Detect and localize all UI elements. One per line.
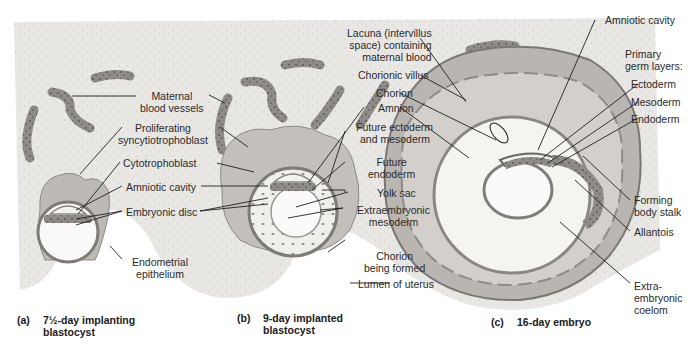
label-endoderm: Endoderm bbox=[631, 113, 679, 125]
label-ectoderm: Ectoderm bbox=[631, 78, 676, 90]
label-proliferating-syncytiotrophoblast: Proliferatingsyncytiotrophoblast bbox=[118, 122, 208, 146]
label-allantois: Allantois bbox=[634, 226, 674, 238]
label-future-ectoderm: Future ectodermand mesoderm bbox=[356, 121, 433, 145]
embryonic-disc-a bbox=[44, 215, 92, 223]
label-maternal-blood-vessels: Maternalblood vessels bbox=[140, 90, 204, 114]
label-future-endoderm: Futureendoderm bbox=[368, 156, 415, 180]
label-yolk-sac: Yolk sac bbox=[377, 187, 416, 199]
label-chorionic-villus: Chorionic villus bbox=[358, 69, 429, 81]
label-chorion: Chorion bbox=[376, 87, 413, 99]
label-lumen-of-uterus: Lumen of uterus bbox=[358, 278, 434, 290]
caption-panel-c: (c)16-day embryo bbox=[491, 316, 591, 328]
caption-panel-b: (b)9-day implantedblastocyst bbox=[237, 312, 343, 336]
label-forming-body-stalk: Formingbody stalk bbox=[634, 194, 681, 218]
embryonic-disc-b bbox=[270, 183, 316, 191]
label-amniotic-cavity-c: Amniotic cavity bbox=[605, 14, 675, 26]
label-embryonic-disc: Embryonic disc bbox=[126, 206, 197, 218]
label-amniotic-cavity-a: Amniotic cavity bbox=[126, 181, 196, 193]
label-primary-germ-layers: Primarygerm layers: bbox=[625, 48, 683, 72]
label-mesoderm: Mesoderm bbox=[631, 96, 681, 108]
caption-panel-a: (a)7½-day implantingblastocyst bbox=[17, 314, 135, 338]
label-lacuna: Lacuna (intervillusspace) containingmate… bbox=[347, 27, 432, 63]
label-chorion-being-formed: Chorionbeing formed bbox=[364, 250, 425, 274]
yolk-sac-b bbox=[271, 187, 321, 237]
label-endometrial-epithelium: Endometrialepithelium bbox=[132, 256, 188, 280]
label-extraembryonic-coelom: Extra-embryoniccoelom bbox=[634, 280, 682, 316]
yolk-sac-c bbox=[484, 162, 552, 218]
label-extraembryonic-mesoderm: Extraembryonicmesoderm bbox=[357, 204, 430, 228]
label-amnion: Amnion bbox=[378, 102, 414, 114]
label-cytotrophoblast: Cytotrophoblast bbox=[123, 157, 197, 169]
